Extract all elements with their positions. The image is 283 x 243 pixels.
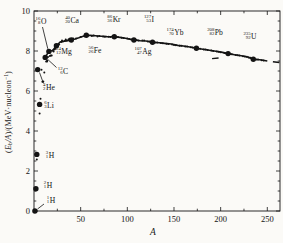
data-point-small [46, 60, 48, 62]
data-point-Li6 [37, 102, 42, 107]
data-point-small [190, 46, 192, 48]
data-point-small [210, 50, 212, 52]
curve-tail-dash [273, 62, 280, 63]
data-point-small [147, 40, 149, 42]
data-point-small [192, 46, 194, 48]
data-point-small [80, 36, 82, 38]
data-point-small [108, 36, 110, 38]
data-point-H3 [34, 152, 39, 157]
nuclide-label-C12: 126C [58, 67, 68, 76]
data-point-small [218, 51, 220, 53]
data-point-small [66, 40, 68, 42]
binding-energy-curve [45, 35, 267, 61]
data-point-Ca40 [69, 37, 74, 42]
data-point-small [53, 51, 55, 53]
nuclide-label-He4: 42He [43, 83, 55, 92]
data-point-small [62, 40, 64, 42]
nuclide-label-O16: 168O [36, 17, 47, 26]
data-point-He4 [35, 67, 40, 72]
data-point-small [128, 38, 130, 40]
data-point-small [235, 54, 237, 56]
x-tick-label: 100 [121, 214, 134, 224]
data-point-small [216, 50, 218, 52]
data-point-small [91, 35, 93, 37]
data-point-small [98, 35, 100, 37]
data-point-small [179, 45, 181, 47]
data-point-small [236, 54, 238, 56]
nuclide-label-Pb208: 20882Pb [207, 28, 223, 37]
nuclide-label-Ca40: 4020Ca [65, 16, 79, 25]
leader-line-O16 [43, 27, 48, 49]
x-tick-label: 200 [214, 214, 227, 224]
data-point-small [223, 52, 225, 54]
data-point-H2 [33, 186, 38, 191]
nuclide-label-Kr86: 8636Kr [107, 15, 120, 24]
data-point-small [97, 35, 99, 37]
data-point-small [40, 98, 42, 100]
data-point-Yb174 [194, 46, 199, 51]
data-point-small [244, 56, 246, 58]
y-tick-label: 10 [22, 6, 31, 16]
x-tick-label: 150 [168, 214, 181, 224]
data-point-small [160, 42, 162, 44]
data-point-small [231, 53, 233, 55]
data-point-small [248, 56, 250, 58]
data-point-small [123, 37, 125, 39]
x-tick-label: 50 [76, 214, 85, 224]
leader-line-H1 [38, 204, 45, 209]
nuclide-label-Mg24: 2412Mg [56, 47, 72, 56]
nuclide-label-H2: 21H [44, 181, 52, 190]
data-point-small [126, 38, 128, 40]
y-tick-label: 6 [26, 86, 30, 96]
y-tick-label: 8 [26, 46, 30, 56]
data-point-small [138, 39, 140, 41]
data-point-small [166, 43, 168, 45]
data-point-small [199, 48, 201, 50]
x-tick-label: 250 [261, 214, 274, 224]
data-point-small [203, 48, 205, 50]
data-point-I127 [150, 40, 155, 45]
data-point-small [36, 159, 38, 161]
data-point-small [75, 38, 77, 40]
data-point-U235 [251, 57, 256, 62]
data-point-H1 [32, 208, 37, 213]
data-point-small [167, 43, 169, 45]
data-point-small [263, 59, 265, 61]
nuclide-label-Ag107: 10747Ag [135, 47, 152, 56]
data-point-small [43, 71, 45, 73]
data-point-small [220, 51, 222, 53]
data-point-O16 [46, 49, 51, 54]
chart-canvas: 501001502002500246810 [0, 0, 283, 243]
data-point-small [156, 42, 158, 44]
data-point-small [143, 40, 145, 42]
data-point-small [238, 55, 240, 57]
data-point-small [242, 55, 244, 57]
data-point-small [246, 56, 248, 58]
data-point-small [181, 45, 183, 47]
data-point-small [102, 36, 104, 38]
nuclide-label-U235: 23592U [243, 32, 256, 41]
data-point-small [93, 34, 95, 36]
data-point-small [121, 37, 123, 39]
data-point-small [117, 36, 119, 38]
y-axis-label: (Eb/A)/(MeV·nucleon−1) [3, 71, 14, 153]
nuclide-label-Yb174: 17470Yb [167, 28, 184, 37]
data-point-small [162, 42, 164, 44]
data-point-small [110, 36, 112, 38]
data-point-small [186, 46, 188, 48]
y-tick-label: 2 [26, 166, 30, 176]
data-point-Kr86 [112, 34, 117, 39]
nuclide-label-Li6: 63Li [44, 101, 54, 110]
x-axis-label: A [150, 227, 156, 237]
data-point-C12 [43, 55, 48, 60]
data-point-small [261, 59, 263, 61]
data-point-small [141, 40, 143, 42]
y-tick-label: 4 [26, 126, 31, 136]
data-point-small [171, 44, 173, 46]
data-point-Pb208 [225, 51, 230, 56]
data-point-small [175, 44, 177, 46]
nuclide-label-H1: 11H [47, 196, 55, 205]
data-point-small [51, 54, 53, 56]
nuclide-label-H3: 31H [46, 151, 54, 160]
data-point-Fe56 [84, 33, 89, 38]
